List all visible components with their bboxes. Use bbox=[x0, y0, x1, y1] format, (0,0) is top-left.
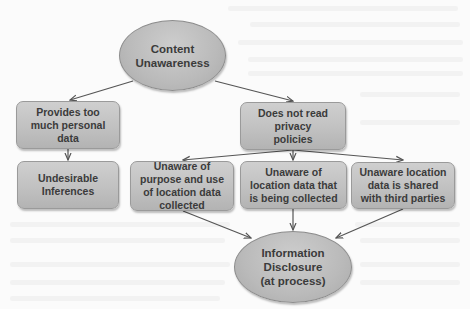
node-label: Unaware of location data that is being c… bbox=[241, 166, 346, 205]
edge-doesnotread-to-shared bbox=[293, 150, 403, 160]
node-content-unawareness: Content Unawareness bbox=[119, 20, 226, 91]
node-label: Does not read privacy policies bbox=[241, 107, 345, 146]
node-undesirable-inferences: Undesirable Inferences bbox=[17, 161, 119, 209]
node-label: Content Unawareness bbox=[120, 42, 225, 70]
node-does-not-read-privacy-policies: Does not read privacy policies bbox=[240, 102, 346, 150]
node-label: Undesirable Inferences bbox=[18, 172, 118, 198]
node-unaware-shared-third-parties: Unaware location data is shared with thi… bbox=[351, 162, 455, 209]
edge-shared-to-disclosure bbox=[336, 209, 403, 238]
node-unaware-data-collected: Unaware of location data that is being c… bbox=[240, 161, 347, 209]
node-label: Unaware location data is shared with thi… bbox=[352, 166, 454, 205]
edge-doesnotread-to-purpose bbox=[183, 150, 293, 160]
node-label: Unaware of purpose and use of location d… bbox=[131, 160, 233, 212]
edge-content-to-doesnotread bbox=[215, 81, 293, 101]
node-label: Provides too much personal data bbox=[17, 106, 119, 145]
edge-content-to-provides bbox=[70, 81, 133, 100]
node-label: Information Disclosure (at process) bbox=[235, 246, 351, 288]
node-provides-too-much-personal-data: Provides too much personal data bbox=[16, 101, 120, 149]
edge-purpose-to-disclosure bbox=[183, 211, 251, 238]
node-information-disclosure: Information Disclosure (at process) bbox=[234, 231, 352, 303]
node-unaware-purpose-use: Unaware of purpose and use of location d… bbox=[130, 161, 234, 211]
